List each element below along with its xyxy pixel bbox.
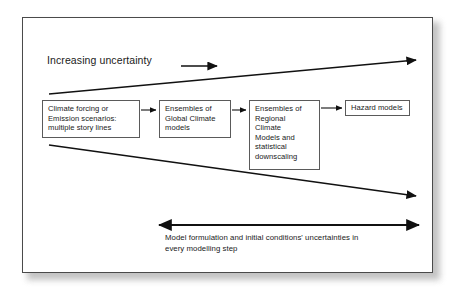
- box-climate-forcing-line-2: Emission scenarios:: [48, 114, 135, 124]
- box-regional-climate-models-line-4: Models and: [255, 133, 315, 143]
- box-climate-forcing[interactable]: Climate forcing or Emission scenarios: m…: [42, 100, 140, 138]
- box-hazard-models-line-1: Hazard models: [351, 103, 405, 113]
- box-climate-forcing-line-3: multiple story lines: [48, 123, 135, 133]
- box-global-climate-models[interactable]: Ensembles of Global Climate models: [159, 100, 231, 138]
- box-global-climate-models-line-2: Global Climate: [165, 114, 226, 124]
- box-regional-climate-models-line-5: statistical: [255, 142, 315, 152]
- figure-inner: Increasing uncertainty Climate forcing o…: [23, 18, 432, 272]
- box-regional-climate-models-line-6: downscaling: [255, 152, 315, 162]
- bottom-caption: Model formulation and initial conditions…: [165, 233, 425, 254]
- box-global-climate-models-line-1: Ensembles of: [165, 104, 226, 114]
- box-hazard-models[interactable]: Hazard models: [345, 100, 410, 116]
- bottom-caption-line-2: every modelling step: [165, 244, 425, 255]
- bottom-caption-line-1: Model formulation and initial conditions…: [165, 233, 425, 244]
- increasing-uncertainty-label: Increasing uncertainty: [47, 54, 152, 67]
- box-global-climate-models-line-3: models: [165, 123, 226, 133]
- box-regional-climate-models-line-2: Regional: [255, 114, 315, 124]
- box-climate-forcing-line-1: Climate forcing or: [48, 104, 135, 114]
- lower-divergence-arrow: [49, 145, 416, 196]
- box-regional-climate-models-line-1: Ensembles of: [255, 104, 315, 114]
- slide-canvas: Increasing uncertainty Climate forcing o…: [0, 0, 461, 308]
- figure-frame: Increasing uncertainty Climate forcing o…: [22, 17, 433, 273]
- box-regional-climate-models[interactable]: Ensembles of Regional Climate Models and…: [249, 100, 320, 170]
- box-regional-climate-models-line-3: Climate: [255, 123, 315, 133]
